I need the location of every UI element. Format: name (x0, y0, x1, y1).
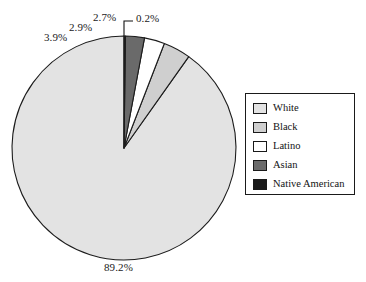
leader-line-native-american (124, 21, 133, 36)
pie-slices (12, 36, 236, 260)
legend-item-latino[interactable]: Latino (253, 137, 354, 155)
legend: White Black Latino Asian Native American (245, 93, 355, 195)
legend-swatch-black (253, 122, 267, 133)
legend-label-black: Black (273, 122, 298, 133)
legend-item-native-american[interactable]: Native American (253, 175, 354, 193)
legend-item-black[interactable]: Black (253, 118, 354, 136)
legend-swatch-white (253, 103, 267, 114)
pie-chart-figure: 3.9% 2.9% 2.7% 0.2% 89.2% White Black La… (0, 0, 366, 282)
legend-swatch-asian (253, 160, 267, 171)
legend-item-asian[interactable]: Asian (253, 156, 354, 174)
label-native-american-percent: 0.2% (136, 13, 159, 24)
leader-line-path (124, 21, 133, 36)
legend-label-asian: Asian (273, 160, 298, 171)
label-latino-percent: 2.9% (69, 22, 92, 33)
label-black-percent: 3.9% (44, 32, 67, 43)
legend-label-white: White (273, 103, 299, 114)
legend-label-latino: Latino (273, 141, 300, 152)
legend-swatch-latino (253, 141, 267, 152)
label-white-percent: 89.2% (104, 262, 133, 273)
label-asian-percent: 2.7% (93, 12, 116, 23)
legend-item-white[interactable]: White (253, 99, 354, 117)
legend-label-native-american: Native American (273, 179, 344, 190)
legend-swatch-native-american (253, 179, 267, 190)
